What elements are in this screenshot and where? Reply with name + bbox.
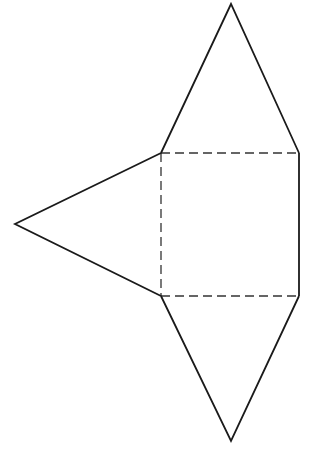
left-triangle-face — [15, 153, 161, 296]
top-triangle-face — [161, 4, 299, 153]
bottom-triangle-face — [161, 296, 299, 441]
pyramid-net-diagram — [0, 0, 309, 474]
